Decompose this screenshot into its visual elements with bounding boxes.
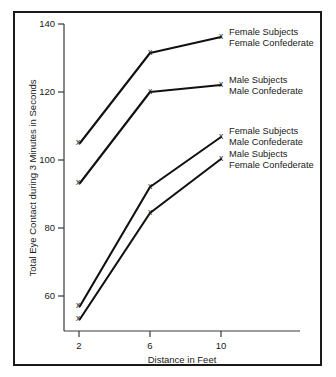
x-tick-label-6: 6 [147,340,152,351]
legend-item-3-line1: Male Subjects [229,149,288,159]
legend-item-male-male[interactable]: Male Subjects Male Confederate [229,75,303,96]
x-tick-label-10: 10 [216,340,227,351]
series-1-line [80,85,221,183]
series-1-point-x10: x [219,79,224,89]
y-tick-label-140: 140 [39,18,55,29]
series-2-line [80,137,221,306]
tick-label-group: 140 120 100 80 60 2 6 10 [39,18,226,351]
legend-item-0-line1: Female Subjects [229,27,299,37]
legend-item-3-line2: Female Confederate [229,160,314,170]
y-axis-title: Total Eye Contact during 3 Minutes in Se… [27,79,38,276]
legend-item-2-line1: Female Subjects [229,126,299,136]
legend-item-female-female[interactable]: Female Subjects Female Confederate [229,27,314,48]
series-male-subjects-male-confederate: x x x [76,79,224,187]
y-tick-label-80: 80 [44,222,55,233]
legend-group: Female Subjects Female Confederate Male … [229,27,314,170]
y-tick-label-100: 100 [39,154,55,165]
legend-item-1-line2: Male Confederate [229,86,303,96]
series-0-point-x10: x [219,31,224,41]
legend-item-1-line1: Male Subjects [229,75,288,85]
axis-group [58,24,300,337]
series-3-point-x10: x [219,153,224,163]
eye-contact-line-chart: 140 120 100 80 60 2 6 10 Distance in Fee… [0,0,336,377]
x-axis-title: Distance in Feet [148,354,217,365]
legend-item-male-female[interactable]: Male Subjects Female Confederate [229,149,314,170]
x-tick-label-2: 2 [76,340,81,351]
legend-item-0-line2: Female Confederate [229,38,314,48]
y-tick-label-120: 120 [39,86,55,97]
legend-item-female-male[interactable]: Female Subjects Male Confederate [229,126,303,147]
series-male-subjects-female-confederate: x x x [76,153,224,323]
y-tick-label-60: 60 [44,290,55,301]
series-2-point-x10: x [219,131,224,141]
legend-item-2-line2: Male Confederate [229,137,303,147]
